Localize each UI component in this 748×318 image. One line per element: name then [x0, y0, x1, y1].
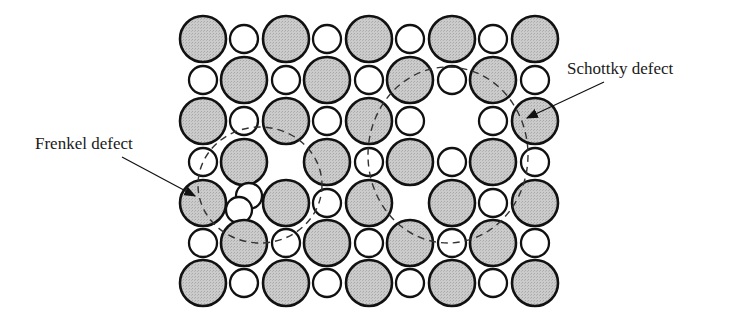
- large-ion: [512, 260, 558, 306]
- small-ion: [396, 107, 424, 135]
- large-ion: [470, 220, 516, 266]
- large-ion: [180, 260, 226, 306]
- small-ion: [479, 107, 507, 135]
- small-ion: [479, 189, 507, 217]
- small-ion: [355, 66, 383, 94]
- large-ion: [304, 57, 350, 103]
- large-ion: [346, 180, 392, 226]
- large-ion: [429, 260, 475, 306]
- small-ion: [355, 229, 383, 257]
- small-ion: [189, 148, 217, 176]
- small-ion: [521, 66, 549, 94]
- small-ion: [479, 269, 507, 297]
- ion-lattice: [180, 16, 558, 306]
- large-ion: [512, 98, 558, 144]
- small-ion: [230, 107, 258, 135]
- defect-diagram: Frenkel defect Schottky defect: [0, 0, 748, 318]
- frenkel-arrow: [122, 157, 195, 196]
- small-ion: [521, 148, 549, 176]
- small-ion: [230, 25, 258, 53]
- large-ion: [429, 16, 475, 62]
- large-ion: [180, 98, 226, 144]
- large-ion: [346, 260, 392, 306]
- large-ion: [512, 180, 558, 226]
- large-ion: [470, 57, 516, 103]
- schottky-label: Schottky defect: [567, 59, 673, 78]
- frenkel-label: Frenkel defect: [35, 134, 133, 153]
- large-ion: [221, 57, 267, 103]
- small-ion: [189, 66, 217, 94]
- large-ion: [263, 180, 309, 226]
- large-ion: [512, 16, 558, 62]
- small-ion: [438, 66, 466, 94]
- large-ion: [304, 139, 350, 185]
- large-ion: [387, 57, 433, 103]
- small-ion: [396, 25, 424, 53]
- large-ion: [387, 139, 433, 185]
- small-ion: [313, 189, 341, 217]
- large-ion: [263, 98, 309, 144]
- small-ion: [313, 269, 341, 297]
- small-ion: [189, 229, 217, 257]
- small-ion: [272, 66, 300, 94]
- small-ion: [230, 269, 258, 297]
- large-ion: [346, 16, 392, 62]
- large-ion: [429, 180, 475, 226]
- large-ion: [387, 220, 433, 266]
- small-ion: [313, 25, 341, 53]
- large-ion: [221, 220, 267, 266]
- large-ion: [263, 16, 309, 62]
- small-ion: [313, 107, 341, 135]
- large-ion: [263, 260, 309, 306]
- large-ion: [180, 180, 226, 226]
- large-ion: [470, 139, 516, 185]
- small-ion: [272, 229, 300, 257]
- large-ion: [304, 220, 350, 266]
- small-ion: [396, 269, 424, 297]
- large-ion: [180, 16, 226, 62]
- small-ion: [479, 25, 507, 53]
- large-ion: [221, 139, 267, 185]
- small-ion: [438, 148, 466, 176]
- small-ion: [521, 229, 549, 257]
